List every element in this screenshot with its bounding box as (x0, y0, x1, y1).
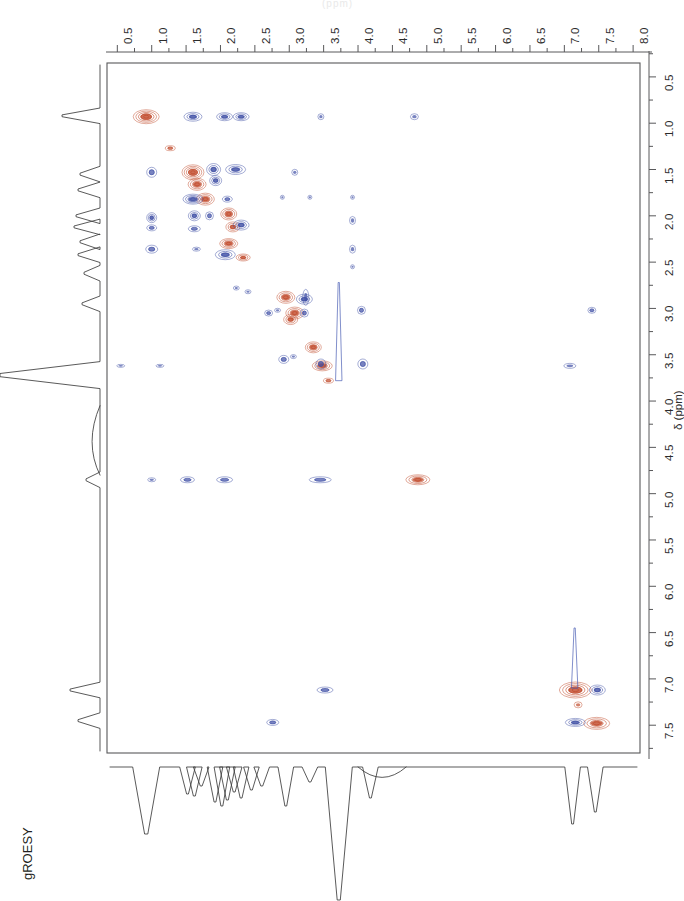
plot-frame (107, 63, 640, 753)
right-tick-label: 4.5 (663, 445, 675, 462)
cross-peak (236, 254, 250, 261)
cross-peak (589, 685, 605, 695)
top-tick-label: 5.5 (466, 27, 478, 44)
cross-peak (188, 226, 200, 232)
cross-peak (559, 682, 591, 698)
f2-projection-trace (110, 767, 637, 900)
cross-peak (156, 364, 164, 367)
contour-peaks-group (117, 110, 610, 730)
cross-peak (147, 225, 157, 231)
cross-peak (183, 194, 203, 204)
cross-peak (226, 222, 240, 232)
right-tick-label: 7.5 (663, 723, 675, 740)
right-tick-label: 5.5 (663, 537, 675, 554)
t1-noise-streak (571, 628, 577, 688)
cross-peak (275, 308, 281, 312)
cross-peak (267, 719, 279, 725)
f2-projection-hump (358, 767, 406, 778)
top-cropped-caption: (ppm) (322, 0, 353, 9)
cross-peak (233, 113, 249, 121)
right-tick-label: 2.5 (663, 260, 675, 277)
top-tick-label: 1.5 (191, 27, 203, 44)
cross-peak (290, 355, 296, 359)
cross-peak (588, 307, 596, 313)
right-tick-label: 6.0 (663, 584, 675, 601)
right-tick-label: 1.0 (663, 121, 675, 138)
cross-peak (406, 475, 430, 485)
right-tick-label: 7.0 (663, 676, 675, 693)
cross-peak (188, 178, 206, 190)
f1-projection-hump (92, 406, 100, 475)
cross-peak (217, 113, 233, 121)
cross-peak (146, 245, 158, 253)
cross-peak (147, 167, 157, 177)
right-tick-label: 1.5 (663, 167, 675, 184)
cross-peak (222, 196, 232, 202)
cross-peak (308, 195, 312, 199)
right-tick-label: 5.0 (663, 491, 675, 508)
cross-peak (207, 164, 221, 176)
top-tick-label: 0.5 (122, 27, 134, 44)
cross-peak (564, 363, 576, 368)
axes-group (106, 45, 656, 759)
top-tick-label: 7.0 (569, 27, 581, 44)
cross-peak (318, 114, 324, 120)
cross-peak (226, 165, 246, 175)
right-tick-label: 2.0 (663, 213, 675, 230)
top-tick-label: 7.5 (604, 27, 616, 44)
top-tick-label: 8.0 (638, 27, 650, 44)
cross-peak (280, 195, 284, 199)
cross-peak (286, 307, 304, 319)
cross-peak (215, 250, 235, 260)
cross-peak (133, 110, 159, 124)
cross-peak (245, 290, 251, 294)
cross-peak (220, 239, 238, 249)
cross-peak (350, 216, 356, 224)
cross-peak (358, 359, 368, 369)
cross-peak (233, 286, 239, 290)
cross-peak (205, 212, 213, 220)
f1-projection-trace (0, 65, 100, 751)
t1-noise-streak (336, 283, 342, 381)
cross-peak (305, 342, 321, 353)
top-tick-label: 2.0 (225, 27, 237, 44)
right-tick-label: 3.5 (663, 352, 675, 369)
top-tick-label: 4.5 (397, 27, 409, 44)
cross-peak (217, 477, 233, 483)
cross-peak (188, 211, 200, 221)
cross-peak (117, 364, 125, 367)
top-tick-label: 5.0 (432, 27, 444, 44)
right-tick-label: 3.0 (663, 306, 675, 323)
top-tick-label: 4.0 (363, 27, 375, 44)
t1-noise-group (336, 283, 578, 689)
experiment-label: gROESY (20, 827, 35, 880)
cross-peak (184, 112, 202, 121)
cross-peak (148, 478, 156, 482)
top-tick-label: 6.5 (535, 27, 547, 44)
cross-peak (210, 176, 222, 186)
cross-peak (351, 265, 355, 269)
cross-peak (410, 114, 418, 120)
cross-peak (309, 477, 331, 483)
top-tick-label: 6.0 (501, 27, 513, 44)
cross-peak (574, 702, 582, 708)
cross-peak (182, 165, 204, 180)
cross-peak (279, 355, 289, 363)
cross-peak (317, 687, 333, 693)
top-tick-label: 1.0 (157, 27, 169, 44)
right-tick-label: 6.5 (663, 630, 675, 647)
cross-peak (147, 213, 157, 223)
cross-peak (233, 220, 249, 230)
cross-peak (284, 315, 298, 325)
top-tick-label: 2.5 (260, 27, 272, 44)
cross-peak (265, 310, 273, 316)
top-tick-label: 3.0 (294, 27, 306, 44)
cross-peak (565, 718, 585, 726)
cross-peak (323, 378, 333, 383)
cross-peak (192, 247, 200, 251)
top-tick-label: 3.5 (329, 27, 341, 44)
right-tick-label: 4.0 (663, 398, 675, 415)
cross-peak (221, 208, 237, 220)
